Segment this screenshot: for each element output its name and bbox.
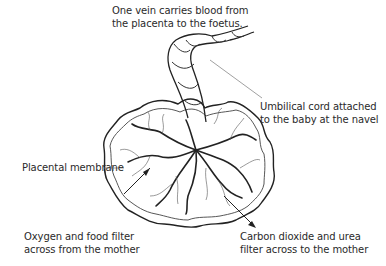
placental-veins: [128, 120, 256, 214]
umbilical-cord: [168, 26, 254, 122]
oxygen-label-line-2: across from the mother: [24, 243, 139, 256]
vein-label-line-1: One vein carries blood from: [112, 4, 248, 17]
cord-label-line-1: Umbilical cord attached: [260, 100, 378, 113]
cord-label-line-2: to the baby at the navel: [260, 113, 378, 126]
placenta-outer-edge: [104, 99, 275, 227]
carbon-label-line-1: Carbon dioxide and urea: [240, 230, 368, 243]
carbon-label-line-2: filter across to the mother: [240, 243, 368, 256]
cord-label: Umbilical cord attached to the baby at t…: [260, 100, 378, 126]
membrane-label-text: Placental membrane: [22, 161, 124, 174]
membrane-label: Placental membrane: [22, 161, 124, 174]
oxygen-arrowhead: [143, 168, 150, 176]
carbon-arrowhead: [248, 221, 256, 228]
carbon-label: Carbon dioxide and urea filter across to…: [240, 230, 368, 256]
vein-label: One vein carries blood from the placenta…: [112, 4, 248, 30]
carbon-arrow: [224, 196, 254, 226]
placenta-illustration: [0, 0, 386, 266]
vein-label-line-2: the placenta to the foetus.: [112, 17, 248, 30]
oxygen-label: Oxygen and food filter across from the m…: [24, 230, 139, 256]
oxygen-label-line-1: Oxygen and food filter: [24, 230, 139, 243]
cord-leader-line: [210, 60, 262, 98]
